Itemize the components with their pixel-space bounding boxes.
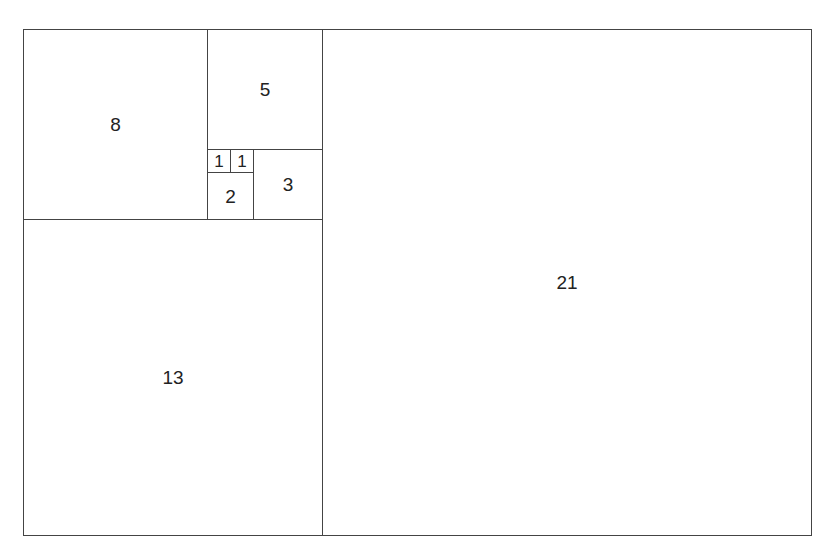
- square-label: 5: [260, 80, 271, 99]
- square-label: 3: [283, 175, 294, 194]
- fibonacci-square-8: 8: [23, 29, 208, 220]
- square-label: 1: [214, 153, 223, 170]
- fibonacci-square-21: 21: [322, 29, 812, 536]
- fibonacci-square-1: 1: [207, 149, 231, 173]
- square-label: 21: [556, 273, 577, 292]
- fibonacci-square-13: 13: [23, 219, 323, 536]
- square-label: 2: [225, 187, 236, 206]
- square-label: 8: [110, 115, 121, 134]
- fibonacci-square-1: 1: [230, 149, 254, 173]
- fibonacci-square-5: 5: [207, 29, 323, 150]
- square-label: 13: [162, 368, 183, 387]
- fibonacci-square-2: 2: [207, 172, 254, 220]
- fibonacci-square-3: 3: [253, 149, 323, 220]
- square-label: 1: [237, 153, 246, 170]
